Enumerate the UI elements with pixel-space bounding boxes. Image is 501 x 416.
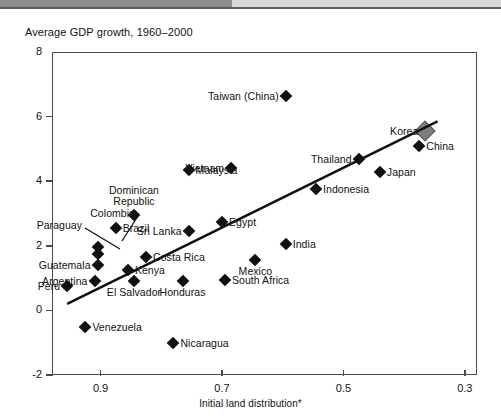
data-point-label: Kenya: [135, 265, 165, 276]
y-axis-tick-mark: [46, 116, 53, 118]
data-point-label: Thailand: [311, 153, 352, 164]
data-point-label: South Africa: [232, 274, 289, 285]
data-point-label: Brazil: [123, 223, 150, 234]
chart-title: Average GDP growth, 1960–2000: [25, 26, 193, 38]
data-point-label: DominicanRepublic: [109, 185, 159, 207]
data-point-label: Indonesia: [323, 184, 369, 195]
x-axis-tick-mark: [221, 370, 223, 376]
scan-artifact-rule: [0, 7, 501, 9]
x-axis-tick-mark: [464, 370, 466, 376]
y-axis-tick-mark: [46, 310, 53, 312]
data-point-label: India: [293, 239, 316, 250]
y-axis-tick-label: -2: [20, 368, 42, 380]
data-point-label: Paraguay: [37, 220, 82, 231]
data-point-label: Korea: [390, 126, 418, 137]
y-axis-tick-label: 6: [20, 110, 42, 122]
x-axis-tick-label: 0.9: [81, 382, 121, 394]
y-axis-tick-label: 8: [20, 45, 42, 57]
data-point-label: Japan: [387, 166, 416, 177]
y-axis-tick-mark: [46, 245, 53, 247]
data-point-label: Colombia: [90, 208, 135, 219]
data-point-label: Honduras: [160, 287, 206, 298]
y-axis-tick-label: 4: [20, 174, 42, 186]
data-point-label: Malaysia: [196, 164, 238, 175]
x-axis-tick-label: 0.3: [445, 382, 485, 394]
data-point-label: China: [426, 140, 454, 151]
data-point-label: Peru: [38, 281, 60, 292]
scan-artifact-bottom: [0, 409, 501, 416]
data-point-label: Costa Rica: [153, 252, 205, 263]
scan-artifact-top-bar: [0, 0, 501, 7]
data-point-label: Guatemala: [39, 260, 91, 271]
y-axis-tick-label: 2: [20, 239, 42, 251]
x-axis-tick-label: 0.5: [323, 382, 363, 394]
x-axis-tick-mark: [100, 370, 102, 376]
x-axis-tick-mark: [343, 370, 345, 376]
y-axis-tick-mark: [46, 180, 53, 182]
y-axis-tick-label: 0: [20, 303, 42, 315]
y-axis-tick-mark: [46, 374, 53, 376]
data-point-label: Venezuela: [92, 321, 142, 332]
data-point-label: Egypt: [229, 216, 256, 227]
data-point-label: El Salvador: [107, 287, 161, 298]
x-axis-title: Initial land distribution*: [0, 398, 501, 409]
data-point-label: Taiwan (China): [208, 90, 279, 101]
data-point-label: Nicaragua: [180, 337, 228, 348]
x-axis-tick-label: 0.7: [202, 382, 242, 394]
